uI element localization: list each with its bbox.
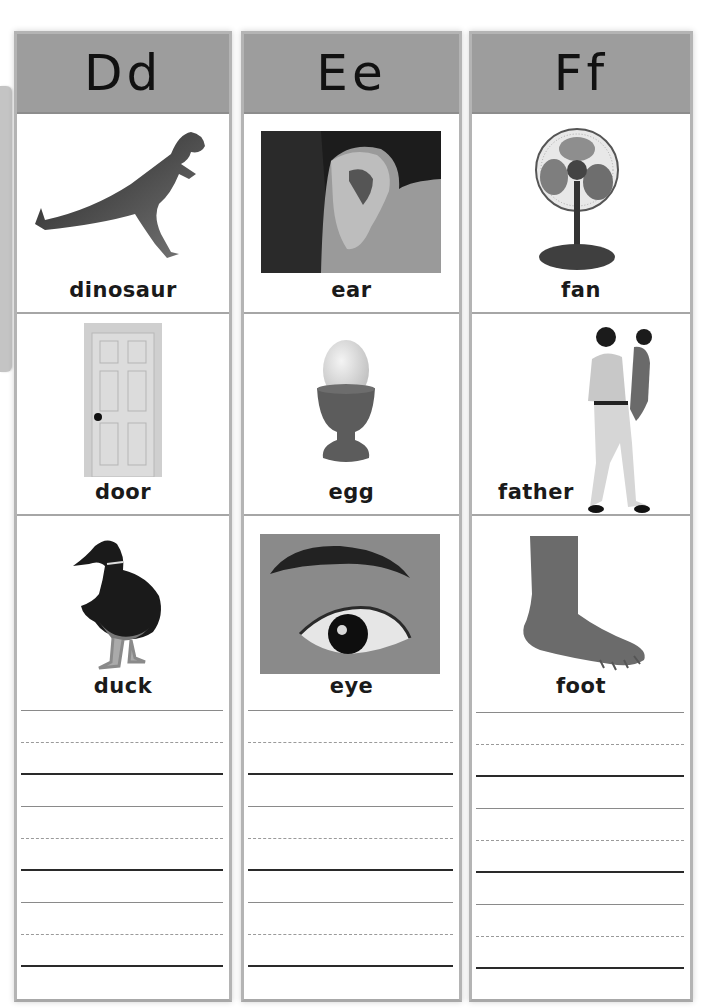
picture-card-door: door: [17, 314, 229, 516]
writing-top-line: [248, 902, 453, 903]
writing-mid-line: [476, 744, 684, 745]
door-picture-icon: [84, 323, 162, 477]
page-side-tab: [0, 86, 12, 372]
picture-card-fan: fan: [472, 114, 690, 314]
writing-top-line: [248, 806, 453, 807]
letter-column-e: Ee ear egg eye: [241, 31, 462, 1002]
writing-base-line: [248, 869, 453, 871]
word-label: fan: [472, 278, 690, 302]
word-label: dinosaur: [17, 278, 229, 302]
writing-top-line: [476, 904, 684, 905]
writing-base-line: [248, 965, 453, 967]
writing-top-line: [476, 808, 684, 809]
writing-base-line: [476, 871, 684, 873]
word-label: duck: [17, 674, 229, 698]
writing-mid-line: [248, 742, 453, 743]
picture-card-foot: foot: [472, 516, 690, 708]
letter-header-d: Dd: [17, 34, 229, 114]
picture-card-father: father: [472, 314, 690, 516]
writing-mid-line: [248, 934, 453, 935]
egg-picture-icon: [315, 340, 377, 466]
writing-mid-line: [248, 838, 453, 839]
word-label: foot: [472, 674, 690, 698]
handwriting-area[interactable]: [17, 708, 229, 1008]
writing-base-line: [21, 773, 223, 775]
writing-base-line: [248, 773, 453, 775]
picture-card-egg: egg: [244, 314, 459, 516]
writing-base-line: [21, 965, 223, 967]
writing-top-line: [248, 710, 453, 711]
ear-picture-icon: [261, 131, 441, 273]
writing-base-line: [21, 869, 223, 871]
letter-header-f: Ff: [472, 34, 690, 114]
fan-picture-icon: [532, 127, 622, 273]
letter-header-e: Ee: [244, 34, 459, 114]
word-label: ear: [244, 278, 459, 302]
picture-card-ear: ear: [244, 114, 459, 314]
writing-base-line: [476, 775, 684, 777]
letter-column-f: Ff fan father: [469, 31, 693, 1002]
writing-mid-line: [21, 838, 223, 839]
writing-mid-line: [476, 936, 684, 937]
dinosaur-picture-icon: [31, 124, 207, 264]
writing-mid-line: [21, 742, 223, 743]
writing-top-line: [21, 902, 223, 903]
picture-card-eye: eye: [244, 516, 459, 708]
handwriting-area[interactable]: [244, 708, 459, 1008]
word-label: father: [498, 480, 690, 504]
writing-top-line: [476, 712, 684, 713]
eye-picture-icon: [260, 534, 440, 674]
picture-card-duck: duck: [17, 516, 229, 708]
writing-top-line: [21, 710, 223, 711]
duck-picture-icon: [73, 536, 173, 670]
word-label: egg: [244, 480, 459, 504]
letter-column-d: Dd dinosaur door duck: [14, 31, 232, 1002]
word-label: eye: [244, 674, 459, 698]
foot-picture-icon: [520, 534, 650, 674]
handwriting-area[interactable]: [472, 708, 690, 1008]
picture-card-dinosaur: dinosaur: [17, 114, 229, 314]
word-label: door: [17, 480, 229, 504]
writing-top-line: [21, 806, 223, 807]
writing-base-line: [476, 967, 684, 969]
writing-mid-line: [21, 934, 223, 935]
writing-mid-line: [476, 840, 684, 841]
